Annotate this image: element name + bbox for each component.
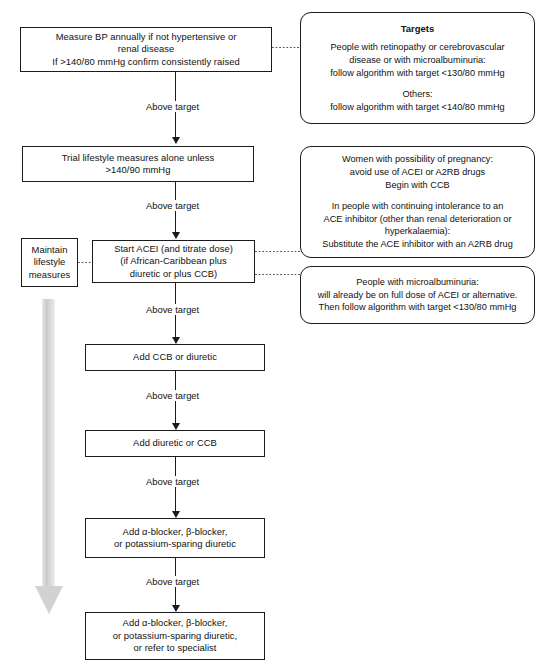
note-pregnancy-intolerance[interactable]: Women with possibility of pregnancy: avo… (300, 146, 535, 258)
node-trial-lifestyle-label: Trial lifestyle measures alone unless >1… (62, 152, 215, 177)
arrowhead-4 (172, 423, 180, 430)
edge-label-above-target-6: Above target (143, 576, 202, 587)
arrowhead-6 (172, 605, 180, 612)
edge-label-above-target-2: Above target (143, 200, 202, 211)
node-maintain-lifestyle[interactable]: Maintain lifestyle measures (21, 238, 78, 287)
note-pregnancy-paragraph-2: In people with continuing intolerance to… (322, 200, 513, 250)
node-add-alpha-beta-blocker-label: Add α-blocker, β-blocker, or potassium-s… (114, 526, 236, 551)
note-pregnancy-paragraph-1: Women with possibility of pregnancy: avo… (342, 153, 493, 191)
node-add-alpha-beta-blocker[interactable]: Add α-blocker, β-blocker, or potassium-s… (85, 518, 265, 558)
maintain-lifestyle-grey-shaft (42, 299, 55, 589)
node-add-alpha-beta-blocker-refer[interactable]: Add α-blocker, β-blocker, or potassium-s… (85, 612, 265, 660)
note-targets-title: Targets (401, 23, 435, 36)
node-measure-bp[interactable]: Measure BP annually if not hypertensive … (20, 27, 272, 72)
node-start-acei[interactable]: Start ACEI (and titrate dose) (if Africa… (92, 240, 255, 283)
note-targets-paragraph-2: Others: follow algorithm with target <14… (330, 88, 504, 113)
dotted-connector-acei-to-pregnancy (255, 251, 301, 252)
edge-label-above-target-5: Above target (143, 476, 202, 487)
node-add-diuretic-or-ccb[interactable]: Add diuretic or CCB (85, 430, 265, 457)
connector-5 (175, 457, 176, 517)
flowchart-canvas: Above target Above target Above target A… (0, 0, 552, 663)
node-add-ccb-or-diuretic[interactable]: Add CCB or diuretic (85, 344, 265, 371)
edge-label-above-target-3: Above target (143, 304, 202, 315)
node-add-ccb-or-diuretic-label: Add CCB or diuretic (133, 351, 217, 363)
dotted-connector-maintain-to-acei (78, 262, 93, 263)
note-microalbuminuria-paragraph-1: People with microalbuminuria: will alrea… (318, 276, 518, 314)
node-measure-bp-label: Measure BP annually if not hypertensive … (52, 31, 239, 68)
note-targets[interactable]: Targets People with retinopathy or cereb… (300, 12, 535, 124)
node-maintain-lifestyle-label: Maintain lifestyle measures (29, 244, 71, 281)
arrowhead-1 (172, 137, 180, 144)
arrowhead-5 (172, 511, 180, 518)
note-targets-paragraph-1: People with retinopathy or cerebrovascul… (330, 41, 504, 79)
maintain-lifestyle-grey-arrowhead (35, 586, 63, 614)
dotted-connector-measure-to-targets (272, 47, 301, 48)
node-add-alpha-beta-blocker-refer-label: Add α-blocker, β-blocker, or potassium-s… (113, 617, 237, 654)
edge-label-above-target-1: Above target (143, 101, 202, 112)
node-add-diuretic-or-ccb-label: Add diuretic or CCB (133, 437, 217, 449)
edge-label-above-target-4: Above target (143, 390, 202, 401)
node-trial-lifestyle[interactable]: Trial lifestyle measures alone unless >1… (22, 146, 254, 182)
dotted-connector-acei-to-microalbuminuria (255, 274, 301, 275)
node-start-acei-label: Start ACEI (and titrate dose) (if Africa… (114, 243, 233, 280)
arrowhead-3 (172, 337, 180, 344)
arrowhead-2 (172, 232, 180, 239)
note-microalbuminuria[interactable]: People with microalbuminuria: will alrea… (300, 266, 535, 324)
